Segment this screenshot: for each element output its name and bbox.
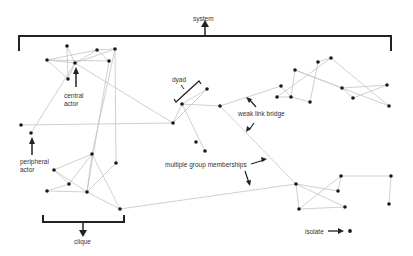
multiple-group-memberships-label: multiple group memberships bbox=[165, 161, 247, 169]
network-node bbox=[194, 140, 198, 144]
network-edge bbox=[21, 123, 173, 125]
network-edge bbox=[299, 176, 341, 209]
weak-link-bridge-label: weak link bridge bbox=[238, 110, 285, 118]
clique-bracket bbox=[43, 215, 124, 222]
clique-arrowhead-icon bbox=[79, 230, 87, 237]
network-node bbox=[90, 152, 94, 156]
network-edge bbox=[92, 49, 115, 154]
peripheral-actor-arrowhead-icon bbox=[29, 137, 35, 144]
network-node bbox=[67, 182, 71, 186]
network-node bbox=[114, 161, 118, 165]
network-node bbox=[180, 102, 184, 106]
central-actor-label: central actor bbox=[64, 92, 84, 107]
isolate-node bbox=[348, 229, 352, 233]
central-actor-label-line2: actor bbox=[64, 100, 84, 108]
network-node bbox=[275, 95, 279, 99]
network-edge bbox=[47, 60, 68, 79]
network-edge bbox=[342, 88, 353, 98]
network-node bbox=[389, 174, 393, 178]
network-edge bbox=[220, 106, 296, 184]
network-edge bbox=[389, 176, 391, 204]
network-node bbox=[66, 77, 70, 81]
network-node bbox=[171, 121, 175, 125]
network-edge bbox=[54, 170, 87, 192]
network-edge bbox=[296, 184, 299, 209]
network-node bbox=[113, 47, 117, 51]
network-node bbox=[336, 189, 340, 193]
network-edge bbox=[291, 70, 295, 97]
network-node bbox=[73, 61, 77, 65]
network-edge bbox=[220, 86, 281, 106]
network-node bbox=[65, 44, 69, 48]
network-edge bbox=[75, 63, 173, 123]
network-edge bbox=[291, 97, 310, 102]
network-edge bbox=[54, 170, 69, 184]
network-node bbox=[387, 202, 391, 206]
network-node bbox=[95, 48, 99, 52]
peripheral-actor-label-line1: peripheral bbox=[20, 158, 49, 166]
network-edge bbox=[47, 191, 87, 192]
network-edge bbox=[277, 58, 331, 97]
network-edge bbox=[296, 184, 345, 207]
network-node bbox=[279, 84, 283, 88]
clique-label: clique bbox=[74, 238, 91, 246]
network-node bbox=[339, 174, 343, 178]
network-edge bbox=[299, 207, 345, 209]
network-edge bbox=[87, 61, 109, 192]
multiple-group-arrowhead-right-icon bbox=[261, 157, 267, 162]
network-node bbox=[294, 182, 298, 186]
network-node bbox=[218, 104, 222, 108]
network-node bbox=[289, 95, 293, 99]
network-edge bbox=[173, 104, 182, 123]
system-label: system bbox=[193, 15, 214, 23]
network-node bbox=[293, 68, 297, 72]
system-bracket bbox=[19, 36, 391, 51]
isolate-label: isolate bbox=[305, 228, 324, 236]
network-node bbox=[316, 60, 320, 64]
multiple-group-arrowhead-down-icon bbox=[246, 180, 251, 186]
peripheral-actor-label-line2: actor bbox=[20, 166, 49, 174]
network-edge bbox=[296, 184, 338, 191]
network-edge bbox=[331, 58, 389, 106]
network-node bbox=[385, 83, 389, 87]
network-node bbox=[387, 104, 391, 108]
network-node bbox=[29, 131, 33, 135]
network-node bbox=[205, 87, 209, 91]
dyad-tick bbox=[181, 85, 184, 89]
network-edge bbox=[318, 58, 331, 62]
network-edge bbox=[182, 104, 205, 151]
network-edge bbox=[173, 89, 207, 123]
central-actor-arrowhead-icon bbox=[73, 67, 79, 74]
network-node bbox=[45, 58, 49, 62]
network-node bbox=[297, 207, 301, 211]
isolate-arrowhead-icon bbox=[338, 228, 344, 234]
network-diagram bbox=[0, 0, 413, 256]
network-node bbox=[118, 207, 122, 211]
central-actor-label-line1: central bbox=[64, 92, 84, 100]
network-edge bbox=[47, 184, 69, 191]
network-node bbox=[343, 205, 347, 209]
network-edge bbox=[115, 49, 116, 163]
network-node bbox=[85, 190, 89, 194]
network-node bbox=[308, 100, 312, 104]
network-node bbox=[340, 86, 344, 90]
dyad-label: dyad bbox=[172, 76, 186, 84]
network-node bbox=[351, 96, 355, 100]
network-edge bbox=[120, 184, 296, 209]
network-node bbox=[45, 189, 49, 193]
network-edge bbox=[47, 50, 97, 60]
network-node bbox=[107, 59, 111, 63]
network-node bbox=[19, 123, 23, 127]
network-node bbox=[203, 149, 207, 153]
network-edge bbox=[182, 104, 220, 106]
network-node bbox=[329, 56, 333, 60]
network-edge bbox=[87, 192, 120, 209]
network-node bbox=[52, 168, 56, 172]
peripheral-actor-label: peripheral actor bbox=[20, 158, 49, 173]
weak-link-arrowhead-down-icon bbox=[246, 126, 251, 132]
